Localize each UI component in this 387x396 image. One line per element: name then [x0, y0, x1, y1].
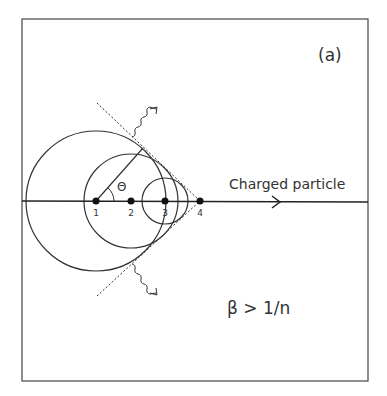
point-label-4: 4 — [197, 208, 203, 218]
angle-label: Θ — [117, 180, 126, 194]
angle-arc — [108, 188, 114, 201]
particle-point-4 — [197, 198, 204, 205]
photon-arrowhead-upper-icon — [150, 107, 157, 114]
trajectory-label: Charged particle — [229, 176, 345, 192]
point-label-1: 1 — [93, 208, 99, 218]
point-label-3: 3 — [162, 208, 168, 218]
photon-arrow-lower-icon — [132, 264, 156, 294]
figure-frame — [22, 19, 368, 381]
panel-label: (a) — [318, 45, 342, 65]
point-label-2: 2 — [128, 208, 134, 218]
particle-point-1 — [93, 198, 100, 205]
cone-envelope-lower — [97, 201, 200, 296]
cherenkov-diagram: 1 2 3 4 (a) Θ Charged particle β > 1/n — [0, 0, 387, 396]
particle-point-2 — [128, 198, 135, 205]
particle-point-3 — [162, 198, 169, 205]
condition-label: β > 1/n — [227, 298, 290, 318]
photon-arrow-upper-icon — [132, 107, 156, 137]
cone-envelope-upper — [97, 103, 200, 201]
particle-trajectory — [22, 201, 368, 202]
